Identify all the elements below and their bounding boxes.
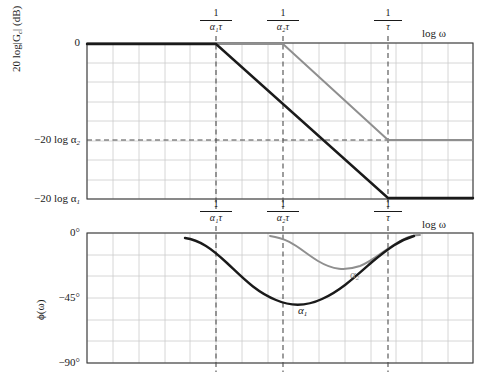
phase-xtick-1-over-alpha2-tau: 1 α₂τ bbox=[267, 199, 299, 223]
phase-xtick-1-over-tau: 1 τ bbox=[374, 199, 402, 223]
magnitude-xtick-1-over-alpha1-tau: 1 α₁τ bbox=[200, 8, 232, 32]
magnitude-ytick-minus20logalpha1-sub: 1 bbox=[77, 198, 81, 206]
phase-ytick-0deg-label: 0° bbox=[70, 226, 80, 238]
phase-ytick-minus90deg-label: −90° bbox=[58, 356, 80, 368]
phase-plot bbox=[87, 226, 473, 372]
phase-curve-label-alpha2-sub: 2 bbox=[356, 274, 360, 282]
magnitude-ytick-minus20logalpha2-label: −20 log α bbox=[34, 133, 77, 145]
magnitude-xtick-1-over-tau-numerator: 1 bbox=[374, 8, 402, 19]
phase-xtick-1-over-tau-denominator: τ bbox=[374, 213, 402, 224]
magnitude-grid bbox=[87, 43, 473, 199]
phase-curve-label-alpha2: α2 bbox=[350, 268, 359, 282]
magnitude-ytick-minus20logalpha1: −20 log α1 bbox=[0, 192, 80, 206]
magnitude-xtick-1-over-alpha2-tau-numerator: 1 bbox=[267, 8, 299, 19]
phase-y-axis-label: ϕ(ω) bbox=[34, 250, 46, 320]
magnitude-ytick-0-label: 0 bbox=[75, 36, 81, 48]
phase-xtick-1-over-tau-numerator: 1 bbox=[374, 199, 402, 210]
phase-xtick-1-over-alpha2-tau-denominator: α₂τ bbox=[267, 213, 299, 224]
phase-ytick-minus45deg: −45° bbox=[28, 291, 80, 303]
magnitude-y-axis-label-text: 20 log|G bbox=[10, 34, 22, 72]
magnitude-xtick-1-over-tau-denominator: τ bbox=[374, 22, 402, 33]
magnitude-dashed-lines bbox=[87, 36, 473, 209]
phase-x-axis-label: log ω bbox=[422, 218, 446, 230]
phase-grid bbox=[87, 233, 473, 363]
phase-ytick-minus90deg: −90° bbox=[28, 356, 80, 368]
magnitude-y-axis-label: 20 log|Gc| (dB) bbox=[10, 0, 24, 72]
phase-curve-label-alpha1: α1 bbox=[298, 304, 307, 318]
magnitude-xtick-1-over-tau: 1 τ bbox=[374, 8, 402, 32]
phase-xtick-1-over-alpha1-tau-numerator: 1 bbox=[200, 199, 232, 210]
magnitude-xtick-1-over-alpha1-tau-denominator: α₁τ bbox=[200, 22, 232, 33]
magnitude-y-axis-label-sub: c bbox=[16, 31, 24, 34]
magnitude-ytick-minus20logalpha2-sub: 2 bbox=[77, 139, 81, 147]
magnitude-xtick-1-over-alpha2-tau: 1 α₂τ bbox=[267, 8, 299, 32]
magnitude-x-axis-label: log ω bbox=[422, 27, 446, 39]
magnitude-xtick-1-over-alpha2-tau-denominator: α₂τ bbox=[267, 22, 299, 33]
phase-curve-label-alpha1-sub: 1 bbox=[304, 310, 308, 318]
magnitude-curve-alpha2 bbox=[87, 44, 473, 140]
phase-ytick-minus45deg-label: −45° bbox=[58, 291, 80, 303]
phase-xtick-1-over-alpha2-tau-numerator: 1 bbox=[267, 199, 299, 210]
phase-xtick-1-over-alpha1-tau-denominator: α₁τ bbox=[200, 213, 232, 224]
phase-xtick-1-over-alpha1-tau: 1 α₁τ bbox=[200, 199, 232, 223]
magnitude-ytick-0: 0 bbox=[46, 36, 80, 48]
phase-ytick-0deg: 0° bbox=[38, 226, 80, 238]
magnitude-ytick-minus20logalpha2: −20 log α2 bbox=[0, 133, 80, 147]
magnitude-plot bbox=[87, 36, 473, 209]
magnitude-ytick-minus20logalpha1-label: −20 log α bbox=[34, 192, 77, 204]
magnitude-y-axis-label-tail: | (dB) bbox=[10, 6, 22, 31]
phase-curve-alpha1 bbox=[185, 236, 414, 305]
bode-diagram-figure: 20 log|Gc| (dB) 0 −20 log α2 −20 log α1 … bbox=[0, 0, 489, 386]
magnitude-xtick-1-over-alpha1-tau-numerator: 1 bbox=[200, 8, 232, 19]
